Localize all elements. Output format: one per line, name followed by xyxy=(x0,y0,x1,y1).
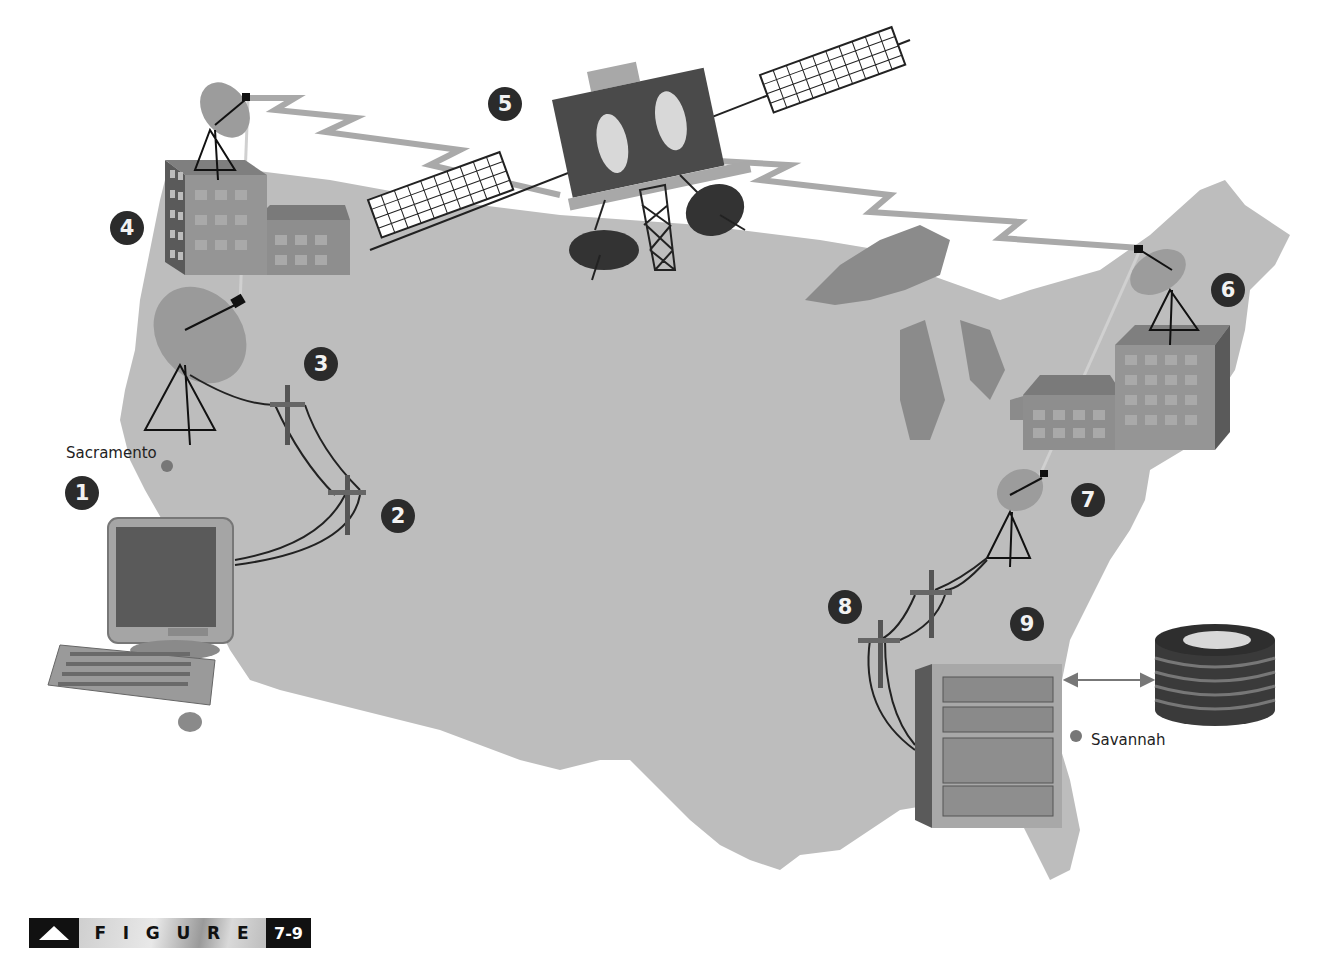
figure-letter: G xyxy=(146,923,162,943)
disk-storage-icon xyxy=(1155,624,1275,726)
step-badge-7: 7 xyxy=(1071,483,1105,517)
figure-diagram: Sacramento Savannah 1 2 3 4 5 6 7 8 9 F … xyxy=(0,0,1336,963)
figure-caption-bar: F I G U R E 7-9 xyxy=(29,918,311,948)
figure-label: F I G U R E xyxy=(79,918,266,948)
figure-letter: I xyxy=(123,923,131,943)
step-badge-8: 8 xyxy=(828,590,862,624)
figure-letter: F xyxy=(94,923,108,943)
figure-letter: U xyxy=(177,923,193,943)
figure-number: 7-9 xyxy=(266,918,311,948)
step-badge-2: 2 xyxy=(381,499,415,533)
step-badge-3: 3 xyxy=(304,347,338,381)
triangle-icon xyxy=(29,918,79,948)
computer-icon xyxy=(48,518,233,732)
step-badge-6: 6 xyxy=(1211,273,1245,307)
figure-letter: E xyxy=(237,923,251,943)
host-computer-icon xyxy=(915,664,1062,828)
pole-8b xyxy=(878,620,883,688)
mouse-icon xyxy=(178,712,202,732)
step-badge-4: 4 xyxy=(110,211,144,245)
sacramento-dot xyxy=(161,460,173,472)
savannah-dot xyxy=(1070,730,1082,742)
pole-3 xyxy=(285,385,290,445)
pole-8a xyxy=(929,570,934,638)
figure-letter: R xyxy=(207,923,222,943)
step-badge-5: 5 xyxy=(488,87,522,121)
city-label-savannah: Savannah xyxy=(1091,731,1166,749)
pole-2 xyxy=(345,475,350,535)
step-badge-9: 9 xyxy=(1010,607,1044,641)
data-link-arrow xyxy=(1065,674,1153,686)
us-map-network-illustration xyxy=(0,0,1336,963)
city-label-sacramento: Sacramento xyxy=(66,444,157,462)
step-badge-1: 1 xyxy=(65,476,99,510)
earth-station-building-west xyxy=(165,160,350,275)
